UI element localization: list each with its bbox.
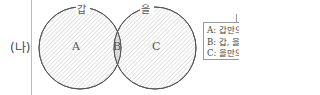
region-b-label: B	[113, 40, 121, 53]
legend-item: A: 갑만의	[207, 25, 239, 37]
legend-box: A: 갑만의 B: 갑, 을 C: 을만의	[203, 22, 239, 60]
legend-item: C: 을만의	[207, 48, 239, 60]
set-gap-label: 갑	[77, 1, 86, 16]
region-a-label: A	[72, 40, 80, 53]
legend-item: B: 갑, 을	[207, 37, 239, 49]
region-c-label: C	[152, 40, 160, 53]
set-eul-label: 을	[141, 1, 150, 16]
